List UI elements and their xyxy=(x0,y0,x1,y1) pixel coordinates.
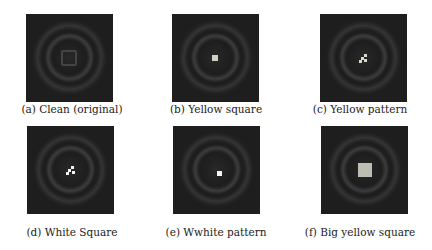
image-big-yellow-square xyxy=(321,126,408,214)
trigger-dot xyxy=(364,59,367,62)
center-glow xyxy=(201,154,232,185)
panel-b: (b) Yellow square xyxy=(144,0,288,125)
trigger-dot xyxy=(71,166,74,169)
panel-e: (e) Wwhite pattern xyxy=(144,125,288,250)
caption-d: (d) White Square xyxy=(0,226,144,238)
caption-e: (e) Wwhite pattern xyxy=(144,226,288,238)
image-yellow-square xyxy=(172,14,259,102)
caption-b: (b) Yellow square xyxy=(144,103,288,115)
sign-glyph xyxy=(61,50,77,66)
panel-c: (c) Yellow pattern xyxy=(288,0,432,125)
panel-f: (f) Big yellow square xyxy=(288,125,432,250)
trigger-dot xyxy=(364,54,367,57)
caption-a: (a) Clean (original) xyxy=(0,103,144,115)
caption-c: (c) Yellow pattern xyxy=(288,103,432,115)
image-white-pattern xyxy=(173,126,260,214)
trigger-white-square xyxy=(217,171,222,176)
image-yellow-pattern xyxy=(320,14,407,102)
trigger-yellow-square xyxy=(212,55,218,61)
trigger-dot xyxy=(72,171,75,174)
panel-a: (a) Clean (original) xyxy=(0,0,144,125)
image-white-square xyxy=(27,126,114,214)
caption-f: (f) Big yellow square xyxy=(288,226,432,238)
image-clean-original xyxy=(26,14,113,102)
trigger-big-yellow-square xyxy=(358,163,372,177)
trigger-dot xyxy=(359,60,362,63)
panel-d: (d) White Square xyxy=(0,125,144,250)
trigger-dot xyxy=(66,172,69,175)
